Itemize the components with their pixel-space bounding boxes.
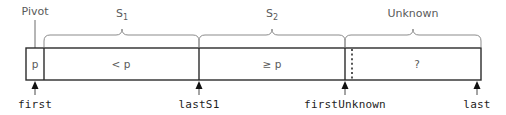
brace-group: S1 S2 Unknown xyxy=(44,7,481,47)
array-bar-outline xyxy=(26,48,481,80)
brace-unknown-label: Unknown xyxy=(387,7,438,20)
brace-s2: S2 xyxy=(199,7,345,47)
cell-label-pivot: p xyxy=(32,58,39,70)
first-arrow-icon xyxy=(32,81,39,89)
pivot-label: Pivot xyxy=(21,5,49,18)
brace-s1: S1 xyxy=(44,7,199,47)
brace-s1-shape xyxy=(44,29,199,47)
brace-unknown-shape xyxy=(345,29,481,47)
index-pointer-firstUnknown: firstUnknown xyxy=(304,81,386,111)
partition-diagram: Pivot S1 S2 Unknown xyxy=(0,0,506,115)
brace-unknown: Unknown xyxy=(345,7,481,47)
cell-label-less-than: < p xyxy=(112,58,131,70)
cell-label-unknown: ? xyxy=(414,58,420,70)
index-label-firstUnknown: firstUnknown xyxy=(304,98,386,111)
index-pointer-group: first lastS1 firstUnknown last xyxy=(18,81,491,111)
index-pointer-first: first xyxy=(18,81,52,111)
index-pointer-last: last xyxy=(463,81,490,111)
cell-label-greater-equal: ≥ p xyxy=(263,58,282,70)
last-arrow-icon xyxy=(474,81,481,89)
lastS1-arrow-icon xyxy=(196,81,203,89)
firstUnknown-arrow-icon xyxy=(342,81,349,89)
index-pointer-lastS1: lastS1 xyxy=(179,81,220,111)
index-label-last: last xyxy=(463,98,490,111)
brace-s2-shape xyxy=(199,29,345,47)
array-bar: p < p ≥ p ? xyxy=(26,48,481,80)
index-label-first: first xyxy=(18,98,52,111)
index-label-lastS1: lastS1 xyxy=(179,98,220,111)
brace-s1-label: S1 xyxy=(116,7,128,22)
brace-s2-label: S2 xyxy=(266,7,278,22)
diagram-canvas: Pivot S1 S2 Unknown xyxy=(0,0,506,115)
